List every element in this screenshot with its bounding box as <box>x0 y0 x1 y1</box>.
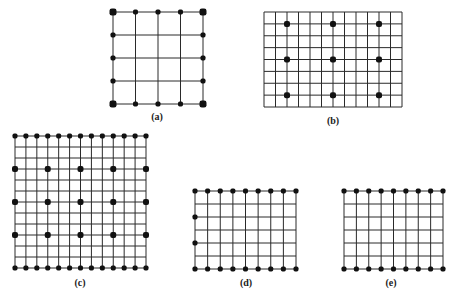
node-dot <box>156 10 161 15</box>
node-dot <box>218 267 223 272</box>
node-dot <box>100 266 105 271</box>
node-dot <box>110 101 117 108</box>
node-dot <box>403 189 408 194</box>
node-dot <box>178 102 183 107</box>
node-dot <box>89 134 94 139</box>
node-dot <box>144 134 149 139</box>
node-dot <box>110 232 116 238</box>
node-dot <box>193 241 198 246</box>
node-dot <box>110 9 117 16</box>
node-dot <box>284 57 290 63</box>
node-dot <box>143 232 149 238</box>
grid-panel-d <box>193 189 299 272</box>
panel-label-c: (c) <box>74 277 85 288</box>
node-dot <box>110 166 116 172</box>
node-dot <box>256 267 261 272</box>
node-dot <box>205 267 210 272</box>
node-dot <box>281 267 286 272</box>
node-dot <box>23 134 28 139</box>
node-dot <box>379 189 384 194</box>
node-dot <box>45 266 50 271</box>
node-dot <box>391 189 396 194</box>
node-dot <box>354 189 359 194</box>
node-dot <box>294 189 299 194</box>
node-dot <box>143 166 149 172</box>
node-dot <box>13 134 18 139</box>
node-dot <box>403 267 408 272</box>
grid-panel-c <box>12 134 149 271</box>
node-dot <box>366 267 371 272</box>
node-dot <box>205 189 210 194</box>
node-dot <box>89 266 94 271</box>
node-dot <box>56 266 61 271</box>
node-dot <box>111 266 116 271</box>
node-dot <box>34 134 39 139</box>
node-dot <box>12 199 18 205</box>
node-dot <box>342 267 347 272</box>
node-dot <box>143 199 149 205</box>
node-dot <box>256 189 261 194</box>
node-dot <box>122 134 127 139</box>
node-dot <box>100 134 105 139</box>
node-dot <box>342 189 347 194</box>
node-dot <box>111 134 116 139</box>
node-dot <box>218 189 223 194</box>
node-dot <box>56 134 61 139</box>
node-dot <box>34 266 39 271</box>
node-dot <box>428 189 433 194</box>
node-dot <box>45 232 51 238</box>
node-dot <box>193 189 198 194</box>
node-dot <box>178 10 183 15</box>
node-dot <box>330 92 336 98</box>
node-dot <box>330 21 336 27</box>
node-dot <box>201 79 206 84</box>
node-dot <box>416 267 421 272</box>
node-dot <box>391 267 396 272</box>
grid-panel-e <box>342 189 446 272</box>
node-dot <box>376 92 382 98</box>
node-dot <box>193 267 198 272</box>
node-dot <box>78 166 84 172</box>
node-dot <box>354 267 359 272</box>
node-dot <box>45 166 51 172</box>
node-dot <box>110 199 116 205</box>
node-dot <box>284 21 290 27</box>
node-dot <box>133 10 138 15</box>
node-dot <box>243 189 248 194</box>
node-dot <box>45 134 50 139</box>
node-dot <box>428 267 433 272</box>
panel-label-e: (e) <box>385 277 396 288</box>
node-dot <box>230 189 235 194</box>
grid-panel-b <box>264 12 402 107</box>
node-dot <box>230 267 235 272</box>
node-dot <box>144 266 149 271</box>
panel-label-b: (b) <box>327 115 339 126</box>
node-dot <box>441 267 446 272</box>
node-dot <box>268 267 273 272</box>
node-dot <box>111 79 116 84</box>
node-dot <box>133 134 138 139</box>
node-dot <box>268 189 273 194</box>
panel-label-d: (d) <box>240 277 252 288</box>
node-dot <box>294 267 299 272</box>
node-dot <box>330 57 336 63</box>
node-dot <box>78 199 84 205</box>
node-dot <box>200 101 207 108</box>
node-dot <box>379 267 384 272</box>
node-dot <box>111 33 116 38</box>
node-dot <box>441 189 446 194</box>
grid-panel-a <box>110 9 207 108</box>
node-dot <box>376 21 382 27</box>
node-dot <box>12 166 18 172</box>
node-dot <box>78 232 84 238</box>
node-dot <box>133 266 138 271</box>
node-dot <box>284 92 290 98</box>
node-dot <box>193 215 198 220</box>
figure-canvas <box>0 0 467 295</box>
node-dot <box>366 189 371 194</box>
node-dot <box>67 266 72 271</box>
node-dot <box>201 33 206 38</box>
node-dot <box>78 266 83 271</box>
panel-label-a: (a) <box>151 111 163 122</box>
node-dot <box>78 134 83 139</box>
